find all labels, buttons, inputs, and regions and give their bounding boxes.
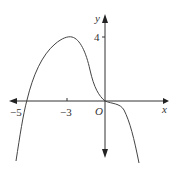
x-tick-label-neg5: −5 (10, 106, 22, 118)
origin-label: O (95, 105, 103, 117)
function-graph: y 4 x O −5 −3 (0, 0, 177, 172)
y-tick-label-4: 4 (94, 31, 100, 43)
y-axis-up-arrow-icon (102, 14, 108, 23)
y-axis-down-arrow-icon (102, 149, 108, 158)
x-axis-left-arrow-icon (9, 98, 17, 104)
x-tick-label-neg3: −3 (60, 106, 72, 118)
x-axis-label: x (161, 103, 167, 115)
function-curve (16, 37, 139, 163)
y-axis-label: y (94, 12, 100, 24)
